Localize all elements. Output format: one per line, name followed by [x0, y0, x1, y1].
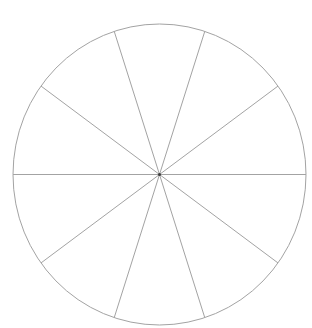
center-point: [158, 173, 161, 176]
chart-canvas: [0, 0, 312, 328]
pie-chart: [0, 0, 312, 328]
